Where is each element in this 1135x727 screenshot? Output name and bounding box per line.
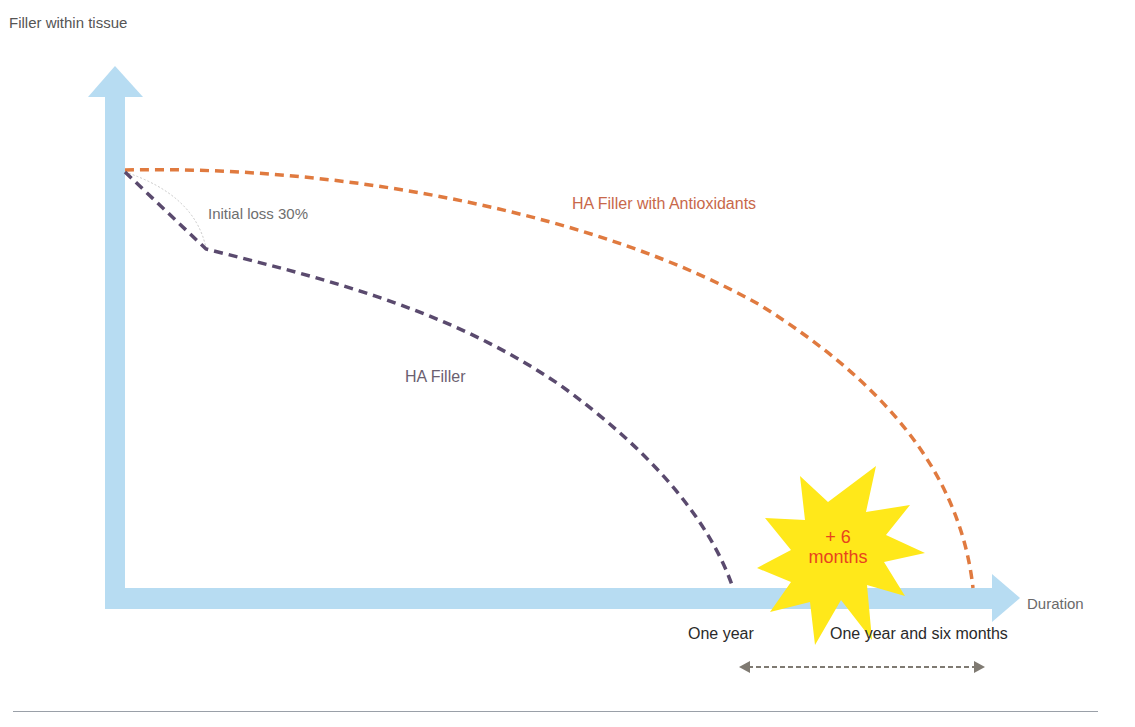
x-axis-label: Duration <box>1027 596 1084 611</box>
series-label-ha-filler-antioxidants: HA Filler with Antioxidants <box>572 196 756 212</box>
series-label-ha-filler: HA Filler <box>405 369 465 385</box>
bottom-divider <box>13 711 1098 712</box>
x-tick-one-year: One year <box>688 626 754 642</box>
x-tick-one-year-six-months: One year and six months <box>830 626 1008 642</box>
callout-line-1: + 6 <box>788 527 888 547</box>
y-axis-arrow <box>88 66 143 609</box>
range-double-arrow <box>739 661 985 673</box>
initial-loss-annotation: Initial loss 30% <box>208 206 308 221</box>
diagram-canvas <box>0 0 1135 727</box>
callout-line-2: months <box>788 547 888 567</box>
starburst-callout-text: + 6 months <box>788 527 888 567</box>
y-axis-label: Filler within tissue <box>9 15 127 30</box>
